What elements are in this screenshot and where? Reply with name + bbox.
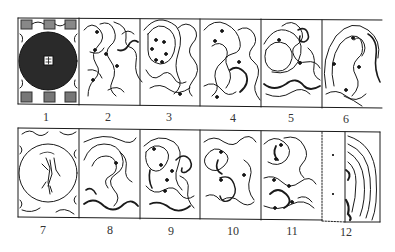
figure: 1 2 3 4 5 6 7 8 9 10 11 12 xyxy=(0,0,395,252)
bottom-row xyxy=(18,128,380,222)
panel-label-10: 10 xyxy=(227,225,239,237)
panel-label-1: 1 xyxy=(43,111,49,123)
panel-9-art xyxy=(144,138,194,211)
panel-6-art xyxy=(324,25,380,106)
panel-label-6: 6 xyxy=(343,113,349,125)
panel-label-5: 5 xyxy=(288,112,294,124)
panel-label-4: 4 xyxy=(230,112,236,124)
panel-2-art xyxy=(84,22,142,96)
panel-8-art xyxy=(84,136,138,209)
panel-label-11: 11 xyxy=(286,225,298,237)
panel-10-art xyxy=(204,136,256,205)
panel-label-7: 7 xyxy=(40,224,46,236)
panel-label-12: 12 xyxy=(340,226,352,238)
panel-3-art xyxy=(144,20,198,96)
panel-label-9: 9 xyxy=(168,225,174,237)
panels-drawing xyxy=(0,0,395,252)
panel-7-art xyxy=(19,131,77,214)
panel-label-8: 8 xyxy=(107,224,113,236)
panel-11-art xyxy=(264,137,316,209)
panel-5-art xyxy=(264,22,320,96)
panel-4-art xyxy=(204,22,260,100)
panel-label-3: 3 xyxy=(166,111,172,123)
panel-12-art xyxy=(332,136,377,220)
panel-1-art xyxy=(19,20,77,102)
panel-label-2: 2 xyxy=(105,111,111,123)
